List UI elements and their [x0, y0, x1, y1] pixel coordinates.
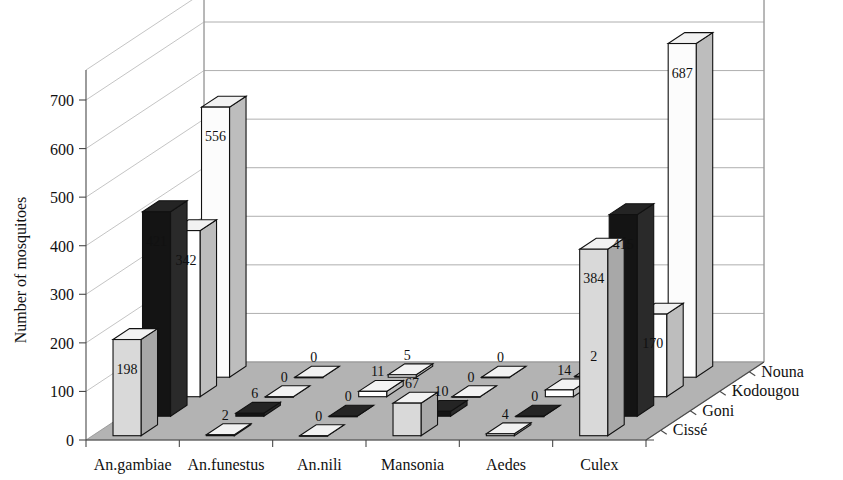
bar-cissé-angambiae [113, 329, 158, 436]
y-axis-tick-label: 400 [50, 238, 74, 255]
bar-value-label: 342 [176, 253, 197, 268]
bar-value-label: 687 [672, 66, 693, 81]
y-axis-title: Number of mosquitoes [12, 197, 30, 344]
bar-value-label: 67 [405, 376, 419, 391]
bar-front-face [359, 391, 387, 396]
bar-front-face [295, 377, 323, 378]
bar-side-face [171, 201, 188, 416]
x-axis-tick-label: An.gambiae [94, 456, 172, 474]
bar-value-label: 10 [434, 384, 448, 399]
bar-front-face [329, 416, 357, 417]
bar-side-face [200, 220, 217, 397]
z-axis-tick [661, 430, 667, 434]
bar-front-face [206, 435, 234, 436]
bar-side-face [141, 329, 158, 436]
bar-value-label: 0 [281, 370, 288, 385]
bar-value-label: 0 [315, 409, 322, 424]
bar-value-label: 14 [557, 363, 571, 378]
y-axis-tick-label: 0 [66, 432, 74, 449]
bar-cissé-culex [580, 238, 625, 435]
bar-front-face [300, 436, 328, 437]
bar-front-face [113, 340, 141, 436]
bar-value-label: 415 [613, 237, 634, 252]
bar-front-face [482, 377, 510, 378]
bar-front-face [236, 413, 264, 416]
gridline-depth [86, 22, 204, 100]
z-axis-tick-label-goni: Goni [702, 402, 735, 419]
bar-value-label: 421 [146, 234, 167, 249]
bar-value-label: 2 [222, 408, 229, 423]
bar-side-face [696, 33, 713, 378]
bar-value-label: 0 [467, 370, 474, 385]
z-axis-tick-label-kodougou: Kodougou [732, 382, 800, 400]
bar-side-face [667, 303, 684, 396]
z-axis-tick [749, 372, 755, 376]
bar-value-label: 0 [345, 389, 352, 404]
bar-front-face [393, 403, 421, 436]
x-axis-tick-label: An.funestus [188, 456, 265, 473]
bar-front-face [486, 434, 514, 436]
bar-side-face [608, 238, 625, 435]
y-axis-tick-label: 100 [50, 383, 74, 400]
gridline-depth [86, 71, 204, 149]
y-axis-tick-label: 700 [50, 92, 74, 109]
bar-value-label: 11 [371, 364, 384, 379]
gridline-depth-top [86, 0, 204, 70]
z-axis-tick-label-nouna: Nouna [761, 363, 804, 380]
x-axis-tick-label: An.nili [297, 456, 342, 473]
chart-container: 6872050556170140110342415010064213844670… [0, 0, 843, 480]
bar-value-label: 5 [404, 348, 411, 363]
gridline-depth [86, 119, 204, 197]
bar-side-face [230, 96, 247, 377]
mosquito-3d-bar-chart: 6872050556170140110342415010064213844670… [0, 0, 843, 480]
bar-front-face [545, 390, 573, 397]
bar-value-label: 198 [117, 362, 138, 377]
bar-value-label: 170 [642, 336, 663, 351]
bar-value-label: 4 [502, 407, 509, 422]
bar-value-label: 384 [583, 271, 604, 286]
bar-value-label: 0 [531, 389, 538, 404]
y-axis-tick-label: 200 [50, 335, 74, 352]
x-axis-tick-label: Aedes [486, 456, 526, 473]
bar-front-face [516, 416, 544, 417]
z-axis-tick [720, 391, 726, 395]
x-axis-tick-label: Culex [580, 456, 618, 473]
bar-value-label: 0 [497, 350, 504, 365]
bar-front-face [265, 397, 293, 398]
bar-cissé-mansonia [393, 392, 438, 435]
bar-value-label: 556 [205, 129, 226, 144]
bar-front-face [452, 397, 480, 398]
z-axis-tick [690, 411, 696, 415]
bar-value-label: 6 [251, 386, 258, 401]
z-axis-tick-label-cissé: Cissé [673, 421, 708, 438]
y-axis-tick-label: 600 [50, 141, 74, 158]
x-axis-tick-label: Mansonia [381, 456, 444, 473]
bar-side-face [637, 204, 654, 416]
bar-value-label: 0 [310, 350, 317, 365]
bar-value-label: 2 [590, 349, 597, 364]
y-axis-tick-label: 300 [50, 286, 74, 303]
y-axis-tick-label: 500 [50, 189, 74, 206]
